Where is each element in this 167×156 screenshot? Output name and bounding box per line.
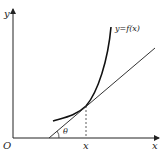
tangent-diagram: O y x x θ y=f(x) bbox=[0, 0, 167, 156]
curve-label: y=f(x) bbox=[114, 24, 140, 33]
origin-label: O bbox=[3, 140, 11, 151]
tangent-line bbox=[49, 48, 155, 138]
point-x-label: x bbox=[83, 140, 89, 151]
angle-arc bbox=[57, 131, 59, 138]
y-axis-label: y bbox=[3, 8, 10, 19]
angle-theta-label: θ bbox=[63, 127, 68, 136]
curve-f bbox=[53, 27, 111, 121]
x-axis-label: x bbox=[152, 140, 158, 151]
